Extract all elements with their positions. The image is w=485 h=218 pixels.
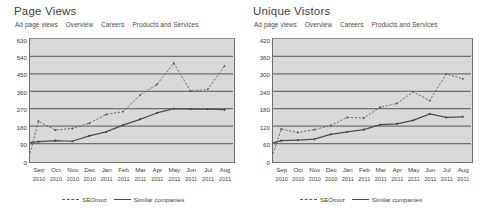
x-axis-tick-label: Dec2010 xyxy=(325,166,337,183)
x-axis-tick-label: Nov2010 xyxy=(309,166,321,183)
data-point xyxy=(54,140,56,142)
y-axis-tick-label: 240 xyxy=(260,88,270,95)
data-point xyxy=(88,135,90,137)
nav-link-products-and-services[interactable]: Products and Services xyxy=(371,21,437,28)
x-tick-month: Sep xyxy=(276,166,287,173)
data-point xyxy=(297,132,299,134)
x-tick-year: 2011 xyxy=(151,175,163,184)
x-tick-year: 2011 xyxy=(375,175,387,184)
data-point xyxy=(173,62,175,64)
nav-link-overview[interactable]: Overview xyxy=(305,21,332,28)
y-axis-tick-label: 0 xyxy=(267,158,270,165)
legend-label-similar-companies: Similar companies xyxy=(134,196,185,203)
x-axis-tick-label: Sep2010 xyxy=(33,166,45,183)
x-tick-year: 2011 xyxy=(358,175,370,184)
x-tick-year: 2011 xyxy=(202,175,214,184)
legend-item-seomoz: SEOmoz xyxy=(300,196,345,203)
x-tick-month: Nov xyxy=(67,166,78,173)
chart-page-views: 090180270360450540630Sep2010Oct2010Nov20… xyxy=(29,38,235,163)
data-point xyxy=(313,138,315,140)
data-point xyxy=(156,112,158,114)
x-tick-year: 2011 xyxy=(408,175,420,184)
x-tick-month: Jan xyxy=(343,166,353,173)
y-axis-tick-label: 300 xyxy=(260,71,270,78)
data-point xyxy=(363,129,365,131)
nav-link-careers[interactable]: Careers xyxy=(101,21,124,28)
x-axis-tick-label: Nov2010 xyxy=(67,166,79,183)
plot-area-unique-visitors xyxy=(272,38,473,163)
data-point xyxy=(139,118,141,120)
data-point xyxy=(105,131,107,133)
x-tick-month: Jun xyxy=(186,166,196,173)
data-point xyxy=(346,116,348,118)
x-tick-month: Dec xyxy=(84,166,95,173)
nav-link-ad-page-views[interactable]: Ad page views xyxy=(254,21,297,28)
x-axis-tick-label: May2011 xyxy=(168,166,180,183)
y-axis-tick-label: 120 xyxy=(260,123,270,130)
x-axis-tick-label: May2011 xyxy=(408,166,420,183)
data-point xyxy=(379,106,381,108)
panel-page-views: Page Views Ad page views Overview Career… xyxy=(0,0,243,218)
data-point xyxy=(156,84,158,86)
data-point xyxy=(445,73,447,75)
data-point xyxy=(38,120,40,122)
data-point xyxy=(313,129,315,131)
data-point xyxy=(223,109,225,111)
data-point xyxy=(280,140,282,142)
x-tick-month: Jul xyxy=(443,166,451,173)
x-tick-year: 2010 xyxy=(50,175,62,184)
x-axis-tick-label: Sep2010 xyxy=(276,166,288,183)
nav-link-products-and-services[interactable]: Products and Services xyxy=(132,21,198,28)
panel-unique-visitors: Unique Vistors Ad page views Overview Ca… xyxy=(243,0,485,218)
chart-legend-page-views: SEOmoz Similar companies xyxy=(62,196,184,203)
x-tick-month: Feb xyxy=(359,166,370,173)
data-point xyxy=(412,119,414,121)
y-axis-tick-label: 180 xyxy=(17,123,27,130)
x-axis-tick-label: Jan2011 xyxy=(342,166,354,183)
solid-line-icon xyxy=(352,199,369,200)
data-point xyxy=(122,111,124,113)
data-point xyxy=(190,90,192,92)
solid-line-icon xyxy=(114,199,131,200)
x-axis-tick-label: Mar2011 xyxy=(375,166,387,183)
data-point xyxy=(224,65,226,67)
x-tick-month: Mar xyxy=(375,166,386,173)
legend-item-seomoz: SEOmoz xyxy=(62,196,107,203)
x-tick-month: Feb xyxy=(118,166,129,173)
x-tick-year: 2010 xyxy=(292,175,304,184)
data-point xyxy=(429,100,431,102)
x-tick-month: Jul xyxy=(204,166,212,173)
x-tick-year: 2010 xyxy=(33,175,45,184)
nav-link-ad-page-views[interactable]: Ad page views xyxy=(15,21,58,28)
x-tick-month: Apr xyxy=(153,166,163,173)
x-tick-month: Oct xyxy=(293,166,303,173)
data-point xyxy=(330,133,332,135)
chart-canvas xyxy=(273,39,471,161)
nav-link-overview[interactable]: Overview xyxy=(66,21,93,28)
data-point xyxy=(429,113,431,115)
nav-link-careers[interactable]: Careers xyxy=(340,21,363,28)
y-axis-tick-label: 360 xyxy=(260,53,270,60)
x-tick-year: 2011 xyxy=(391,175,403,184)
legend-item-similar-companies: Similar companies xyxy=(114,196,185,203)
data-point xyxy=(37,141,39,143)
x-tick-month: Dec xyxy=(326,166,337,173)
chart-legend-unique-visitors: SEOmoz Similar companies xyxy=(300,196,422,203)
data-point xyxy=(173,108,175,110)
x-tick-year: 2011 xyxy=(219,175,231,184)
dashed-line-icon xyxy=(300,199,317,200)
x-tick-year: 2010 xyxy=(325,175,337,184)
x-axis-tick-label: Apr2011 xyxy=(391,166,403,183)
data-point xyxy=(396,123,398,125)
x-tick-month: Jan xyxy=(102,166,112,173)
x-axis-tick-label: Jul2011 xyxy=(202,166,214,183)
x-tick-month: Jun xyxy=(425,166,435,173)
x-axis-tick-label: Aug2011 xyxy=(457,166,469,183)
nav-links: Ad page views Overview Careers Products … xyxy=(15,21,198,28)
x-axis-tick-label: Jun2011 xyxy=(424,166,436,183)
y-axis-tick-label: 630 xyxy=(17,36,27,43)
data-point xyxy=(379,124,381,126)
x-tick-month: May xyxy=(408,166,420,173)
x-axis-tick-label: Jun2011 xyxy=(185,166,197,183)
data-point xyxy=(346,131,348,133)
